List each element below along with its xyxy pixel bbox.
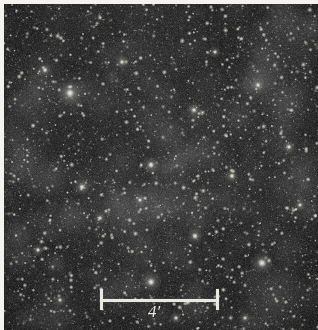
left-margin-rule (0, 0, 4, 330)
scale-bar-label: 4' (148, 303, 160, 320)
top-margin-rule (0, 0, 318, 4)
star-field-figure: 4' (0, 0, 318, 330)
sky-image (4, 4, 318, 330)
star-field-canvas (4, 4, 318, 330)
